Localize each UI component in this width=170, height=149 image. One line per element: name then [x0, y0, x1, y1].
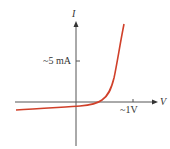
y-axis-arrow-icon	[74, 21, 79, 27]
iv-curve-diagram	[0, 0, 170, 149]
x-axis-label: V	[160, 97, 166, 107]
iv-curve	[16, 24, 124, 110]
y-axis-label: I	[72, 9, 75, 19]
y-tick-label: ~5 mA	[43, 56, 71, 66]
x-tick-label: ~1V	[120, 105, 138, 115]
x-axis-arrow-icon	[152, 100, 158, 105]
